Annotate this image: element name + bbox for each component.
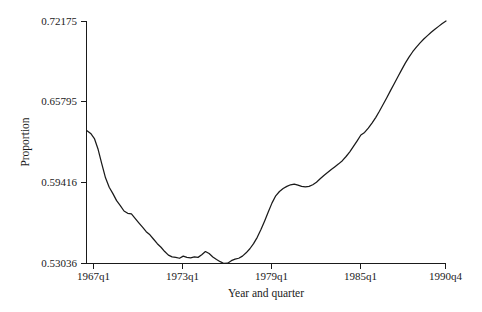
y-tick-label-0: 0.53036 [41, 257, 77, 269]
x-tick-label-0: 1967q1 [77, 270, 110, 282]
x-tick-label-1: 1973q1 [166, 270, 199, 282]
x-tick-label-2: 1979q1 [255, 270, 288, 282]
chart-figure: 0.72175 0.65795 0.59416 0.53036 1967q1 1… [0, 0, 482, 312]
proportion-line-chart: 0.72175 0.65795 0.59416 0.53036 1967q1 1… [0, 0, 482, 312]
y-tick-label-3: 0.72175 [41, 15, 77, 27]
y-axis-title: Proportion [19, 117, 32, 166]
y-tick-label-1: 0.59416 [41, 176, 77, 188]
x-tick-label-3: 1985q1 [344, 270, 377, 282]
x-axis-title: Year and quarter [228, 287, 304, 300]
y-tick-label-2: 0.65795 [41, 95, 77, 107]
x-tick-label-4: 1990q4 [429, 270, 463, 282]
